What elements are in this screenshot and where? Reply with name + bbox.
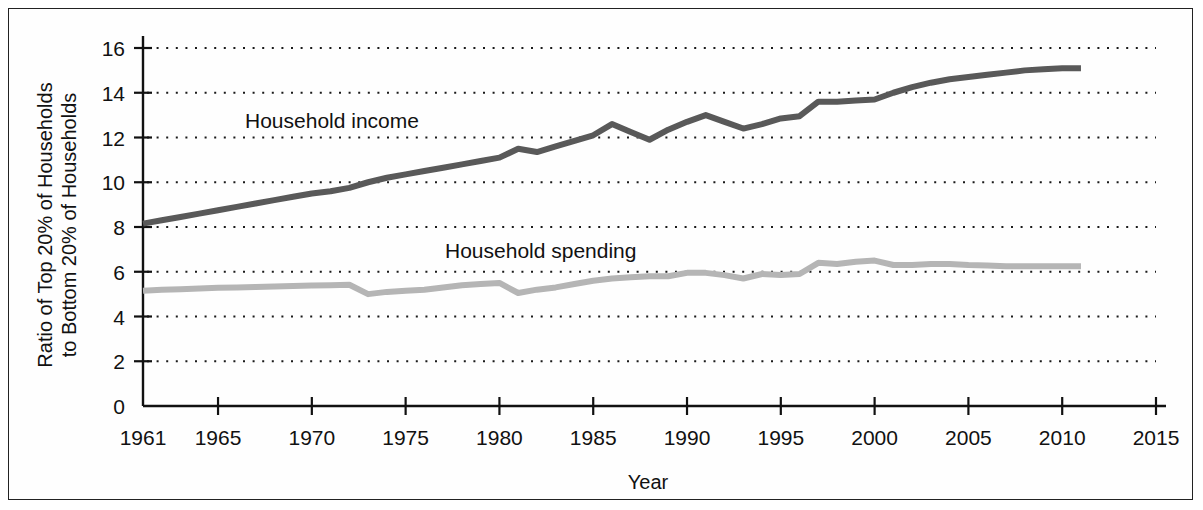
grid-lines <box>147 48 1156 361</box>
chart-figure: 1961196519701975198019851990199520002005… <box>0 0 1203 510</box>
x-tick-label: 2000 <box>851 426 898 449</box>
x-tick-label: 1990 <box>664 426 711 449</box>
x-tick-label: 1995 <box>757 426 804 449</box>
x-tick-label: 1985 <box>570 426 617 449</box>
y-tick-label: 16 <box>102 37 125 60</box>
x-tick-label: 2010 <box>1039 426 1086 449</box>
y-tick-label: 14 <box>102 82 126 105</box>
y-tick-label: 12 <box>102 127 125 150</box>
x-tick-label: 1970 <box>288 426 335 449</box>
line-chart: 1961196519701975198019851990199520002005… <box>0 0 1203 510</box>
x-tick-label: 2015 <box>1133 426 1180 449</box>
x-axis-title: Year <box>628 471 669 493</box>
y-tick-label: 4 <box>113 306 125 329</box>
x-tick-label: 1961 <box>120 426 167 449</box>
x-tick-label: 2005 <box>945 426 992 449</box>
series-label-income: Household income <box>245 109 419 132</box>
x-tick-label: 1965 <box>195 426 242 449</box>
y-tick-label: 6 <box>113 261 125 284</box>
y-axis-title-line1: Ratio of Top 20% of Households <box>34 82 56 367</box>
series-line-spending <box>143 261 1081 295</box>
axis-lines <box>143 36 1166 406</box>
x-tick-label: 1975 <box>382 426 429 449</box>
y-axis-ticks: 0246810121416 <box>102 37 152 418</box>
series-label-spending: Household spending <box>445 239 636 262</box>
series-line-income <box>143 68 1081 224</box>
x-tick-label: 1980 <box>476 426 523 449</box>
y-tick-label: 2 <box>113 350 125 373</box>
series-annotations: Household income Household spending <box>245 109 636 262</box>
y-tick-label: 8 <box>113 216 125 239</box>
y-tick-label: 0 <box>113 395 125 418</box>
y-tick-label: 10 <box>102 171 125 194</box>
y-axis-title-line2: to Bottom 20% of Households <box>58 93 80 358</box>
